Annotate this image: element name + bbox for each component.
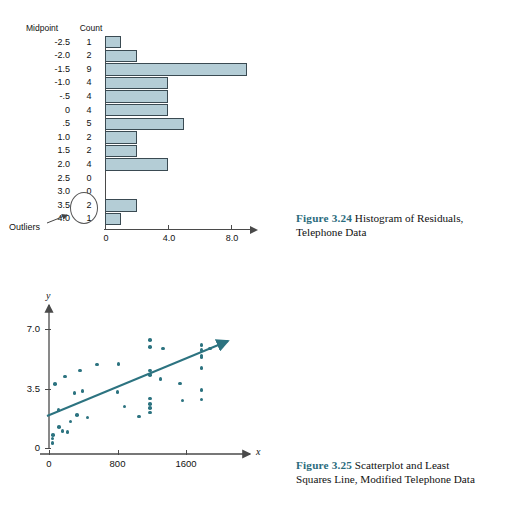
scatter-point <box>148 338 152 342</box>
cell-midpoint: 3.0 <box>24 185 75 199</box>
caption-text-325-line1: Scatterplot and Least <box>355 459 449 471</box>
table-row: 04 <box>24 104 105 118</box>
cell-count: 4 <box>75 90 103 104</box>
scatter-point <box>148 402 152 406</box>
table-row: -2.02 <box>24 49 105 63</box>
histogram-bar <box>105 131 137 143</box>
scatter-x-tick-label: 0 <box>46 458 51 469</box>
x-axis-line <box>104 229 252 230</box>
scatter-y-tick <box>45 329 51 330</box>
table-row: 1.52 <box>24 144 105 158</box>
cell-count: 0 <box>75 172 103 186</box>
cell-midpoint: .5 <box>24 117 75 131</box>
caption-text-324-line1: Histogram of Residuals, <box>355 212 463 224</box>
table-row: -2.51 <box>24 36 105 50</box>
scatter-point <box>57 425 61 429</box>
table-row: -.54 <box>24 90 105 104</box>
scatter-x-tick-label: 800 <box>110 458 126 469</box>
scatter-point <box>51 441 55 445</box>
header-midpoint: Midpoint <box>24 22 77 36</box>
cell-midpoint: 0 <box>24 104 75 118</box>
scatter-plot-area: 0800160003.57.0 5 y x <box>0 288 290 498</box>
scatter-point <box>148 411 152 415</box>
scatter-y-tick-label: 3.5 <box>27 383 40 394</box>
scatter-x-tick-label: 1600 <box>175 458 196 469</box>
histogram-bar <box>105 104 168 116</box>
histogram-bar <box>105 158 168 170</box>
scatter-y-tick-label: 7.0 <box>27 323 40 334</box>
histogram-bar <box>105 213 121 225</box>
scatter-axes-and-line <box>0 288 290 498</box>
table-header-row: Midpoint Count <box>24 22 105 36</box>
scatter-y-tick-label: 0 <box>35 442 40 453</box>
x-axis-label: x <box>256 446 260 457</box>
cell-count: 4 <box>75 104 103 118</box>
cell-count: 2 <box>75 144 103 158</box>
histogram-x-axis: 04.08.0 <box>104 229 264 243</box>
scatter-point <box>200 355 204 359</box>
scatter-point <box>57 408 61 412</box>
cell-midpoint: -2.5 <box>24 36 75 50</box>
figure-number-325-wrap: Figure 3.25 <box>296 459 352 471</box>
scatter-point <box>148 345 152 349</box>
y-axis-label: y <box>46 290 50 301</box>
x-axis-tick <box>168 225 169 230</box>
histogram-bar <box>105 145 137 157</box>
scatter-x-tick <box>186 450 187 455</box>
cell-midpoint: -.5 <box>24 90 75 104</box>
figure-number-325: Figure 3.25 <box>296 459 352 471</box>
table-row: -1.04 <box>24 76 105 90</box>
figure-3-24-histogram: Midpoint Count -2.51-2.02-1.59-1.04-.540… <box>0 0 285 260</box>
cell-count: 2 <box>75 131 103 145</box>
histogram-bar <box>105 36 121 48</box>
scatter-point <box>66 430 70 434</box>
scatter-x-tick <box>118 450 119 455</box>
scatter-point <box>81 389 85 393</box>
scatter-point <box>53 382 57 386</box>
cell-midpoint: -1.0 <box>24 76 75 90</box>
x-axis-tick <box>105 225 106 230</box>
cell-count: 4 <box>75 158 103 172</box>
scatter-y-tick <box>45 389 51 390</box>
cell-count: 9 <box>75 63 103 77</box>
scatter-x-tick <box>49 450 50 455</box>
cell-midpoint: -2.0 <box>24 49 75 63</box>
scatter-point <box>200 343 204 347</box>
scatter-point <box>200 388 204 392</box>
outlier-arrow-icon <box>46 212 74 226</box>
caption-325-line1: Figure 3.25 Scatterplot and Least <box>296 458 522 472</box>
figure-number-324: Figure 3.24 <box>296 212 352 224</box>
table-row: 1.02 <box>24 131 105 145</box>
figure-3-25-scatterplot: 0800160003.57.0 5 y x <box>0 288 290 498</box>
histogram-bar <box>105 199 137 211</box>
outliers-label: Outliers <box>9 222 40 232</box>
scatter-y-tick <box>45 448 51 449</box>
x-axis-tick-label: 0 <box>103 233 108 243</box>
header-count: Count <box>77 22 105 36</box>
cell-midpoint: 3.5 <box>24 199 75 213</box>
scatter-point <box>51 433 55 437</box>
cell-midpoint: 1.0 <box>24 131 75 145</box>
table-row: 2.50 <box>24 172 105 186</box>
scatter-point <box>148 373 152 377</box>
scatter-point <box>75 413 79 417</box>
histogram-bars <box>105 36 275 226</box>
histogram-bar <box>105 118 184 130</box>
histogram-bar <box>105 63 247 75</box>
caption-figure-3-24: Figure 3.24 Histogram of Residuals, Tele… <box>296 211 518 239</box>
scatter-point <box>63 375 67 379</box>
cell-count: 5 <box>75 117 103 131</box>
x-axis-tick-label: 4.0 <box>163 233 176 243</box>
scatter-point <box>161 347 165 351</box>
caption-figure-3-25: Figure 3.25 Scatterplot and Least Square… <box>296 458 522 486</box>
scatter-point <box>148 406 152 410</box>
caption-text-324-line2: Telephone Data <box>296 225 518 239</box>
cell-midpoint: 2.0 <box>24 158 75 172</box>
cell-midpoint: 2.5 <box>24 172 75 186</box>
x-axis-arrow-icon <box>250 226 258 234</box>
x-axis-tick-label: 8.0 <box>226 233 239 243</box>
histogram-bar <box>105 90 168 102</box>
cell-count: 4 <box>75 76 103 90</box>
cell-count: 2 <box>75 49 103 63</box>
scatter-point <box>178 382 182 386</box>
